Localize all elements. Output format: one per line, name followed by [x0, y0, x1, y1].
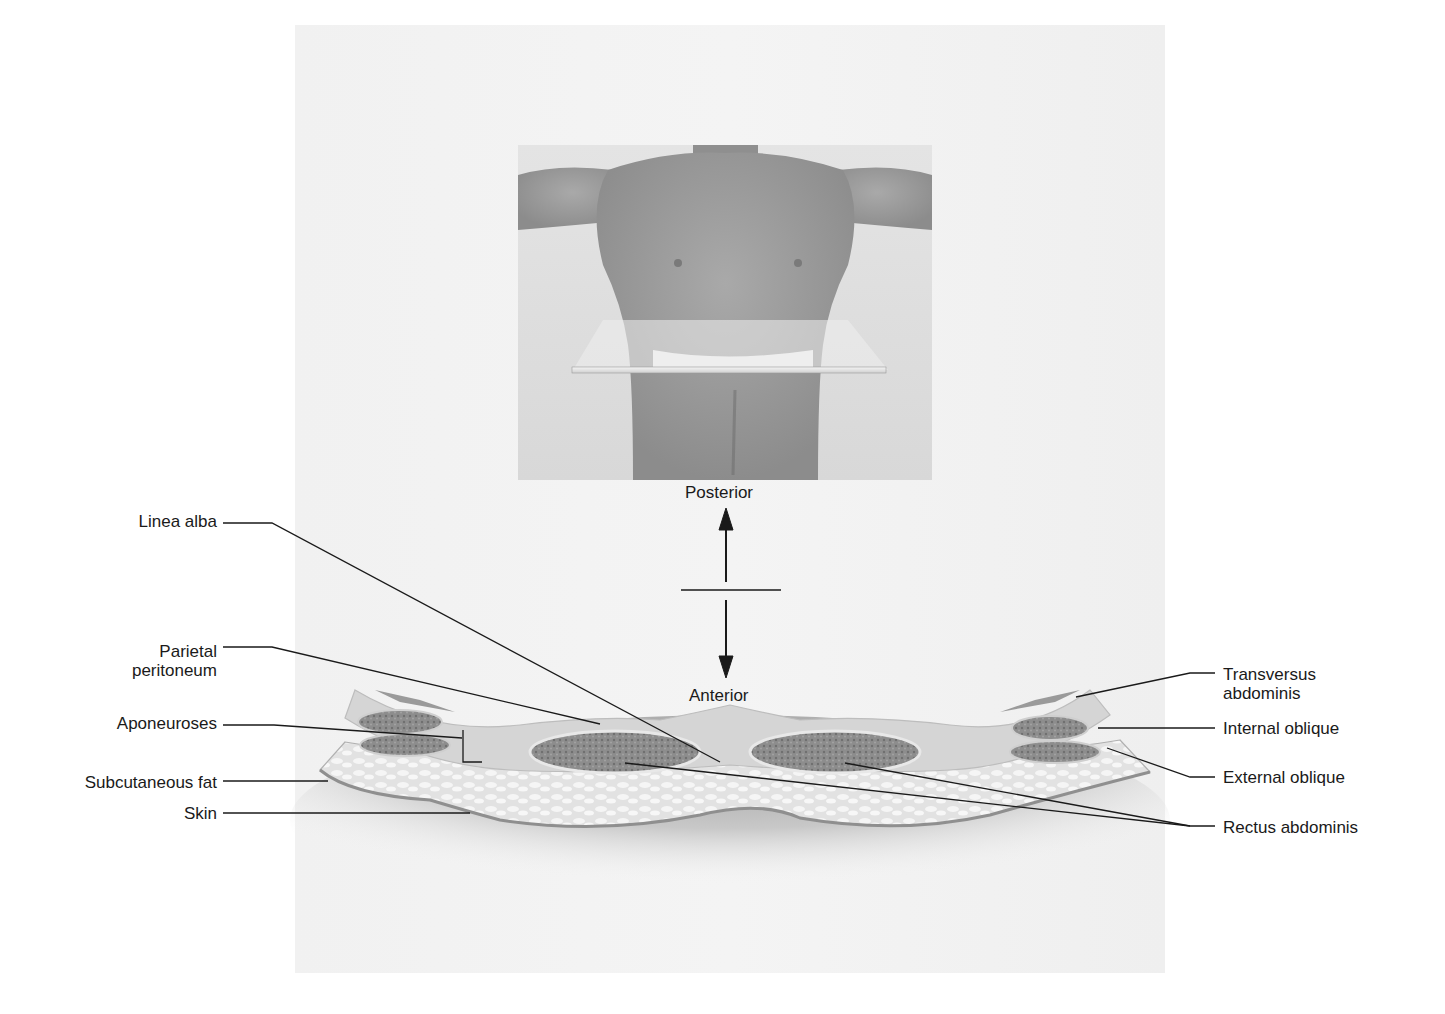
label-subcutaneous-fat: Subcutaneous fat [85, 773, 217, 792]
arrow-down-icon [719, 656, 733, 678]
anterior-label: Anterior [689, 686, 749, 706]
label-parietal-peritoneum: Parietal peritoneum [132, 642, 217, 680]
label-linea-alba: Linea alba [139, 512, 217, 531]
label-parietal-line2: peritoneum [132, 661, 217, 680]
rectus-abdominis-right [750, 731, 920, 773]
leader-transversus [1076, 673, 1215, 697]
external-oblique-right [1010, 741, 1100, 763]
label-internal-oblique: Internal oblique [1223, 719, 1339, 738]
label-skin: Skin [184, 804, 217, 823]
external-oblique-left [360, 734, 450, 756]
label-transversus-line1: Transversus [1223, 665, 1316, 684]
orientation-arrows [681, 508, 781, 678]
internal-oblique-right [1012, 716, 1088, 740]
posterior-label: Posterior [685, 483, 753, 503]
cross-section-diagram [0, 0, 1445, 1014]
internal-oblique-left [358, 710, 442, 734]
label-transversus-abdominis: Transversus abdominis [1223, 665, 1316, 703]
arrow-up-icon [719, 508, 733, 530]
label-aponeuroses: Aponeuroses [117, 714, 217, 733]
label-parietal-line1: Parietal [132, 642, 217, 661]
label-transversus-line2: abdominis [1223, 684, 1316, 703]
label-rectus-abdominis: Rectus abdominis [1223, 818, 1358, 837]
label-external-oblique: External oblique [1223, 768, 1345, 787]
